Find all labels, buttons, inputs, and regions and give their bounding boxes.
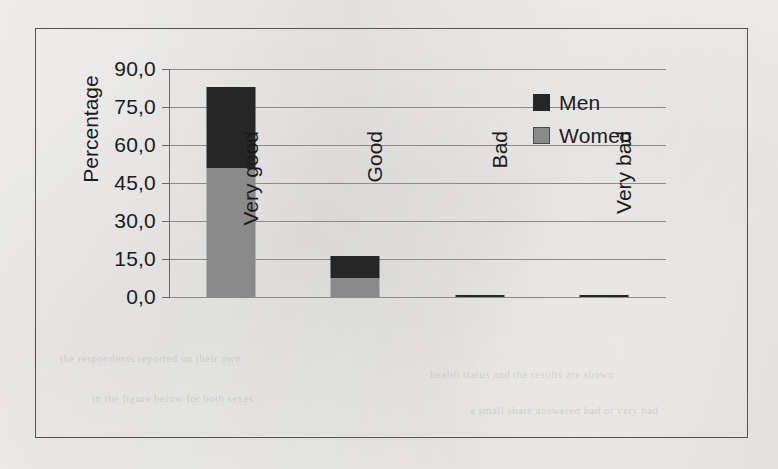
- legend-item[interactable]: Women: [533, 119, 713, 152]
- bar-slot: [293, 69, 417, 297]
- bar-slot: [418, 69, 542, 297]
- y-axis-tick-label: 15,0: [94, 247, 156, 271]
- x-axis-category-label: Very bad: [612, 131, 636, 311]
- legend-label: Men: [559, 91, 600, 115]
- y-axis-tick: [162, 69, 170, 70]
- y-axis-tick-label: 60,0: [94, 133, 156, 157]
- x-axis-category-label: Bad: [488, 131, 512, 311]
- y-axis-tick-label: 0,0: [94, 285, 156, 309]
- y-axis-tick-label: 30,0: [94, 209, 156, 233]
- legend-swatch-women: [533, 127, 550, 144]
- y-axis-tick-label: 45,0: [94, 171, 156, 195]
- y-axis-tick: [162, 297, 170, 298]
- legend-label: Women: [559, 124, 632, 148]
- x-axis-category-label: Good: [363, 131, 387, 311]
- chart-legend: MenWomen: [533, 86, 713, 152]
- y-axis-tick: [162, 145, 170, 146]
- y-axis-tick: [162, 183, 170, 184]
- x-axis-category-label: Very good: [239, 131, 263, 311]
- y-axis-tick: [162, 221, 170, 222]
- y-axis-tick-label: 90,0: [94, 57, 156, 81]
- y-axis-tick-label: 75,0: [94, 95, 156, 119]
- legend-item[interactable]: Men: [533, 86, 713, 119]
- legend-swatch-men: [533, 94, 550, 111]
- y-axis-tick: [162, 107, 170, 108]
- y-axis-title: Percentage: [79, 19, 103, 239]
- chart-figure: 90,075,060,045,030,015,00,0 Percentage V…: [35, 28, 748, 438]
- y-axis-tick: [162, 259, 170, 260]
- bar-slot: [169, 69, 293, 297]
